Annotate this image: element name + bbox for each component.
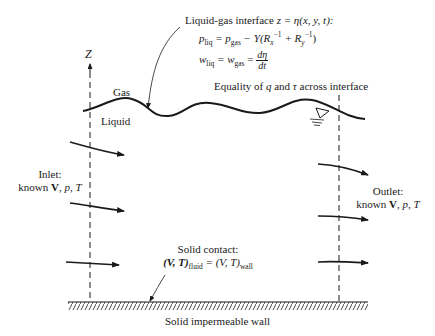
equality-of-flux-label: Equality of q and τ across interface [214,80,368,93]
inlet-flow-arrows [66,142,124,265]
interface-pointer-arrow [148,27,180,108]
solid-contact-label: Solid contact: (V, T)fluid = (V, T)wall [148,243,268,269]
gas-region-label: Gas [113,86,130,99]
free-surface-symbol [310,108,329,126]
solid-contact-pointer-arrow [150,275,165,301]
liquid-region-label: Liquid [101,115,130,128]
outlet-flow-arrows [318,164,368,263]
kinematic-condition-equation: wliq = wgas = dηdt [199,50,268,71]
z-axis-label: Z [85,48,92,61]
outlet-label: Outlet: known V, p, T [348,185,428,211]
inlet-label: Inlet: known V, p, T [14,168,86,194]
wall-label: Solid impermeable wall [135,315,300,328]
solid-wall [68,302,368,310]
interface-title: Liquid-gas interface z = η(x, y, t): [185,14,334,27]
pressure-jump-equation: pliq = pgas − Υ(Rx−1 + Ry−1) [199,32,316,45]
